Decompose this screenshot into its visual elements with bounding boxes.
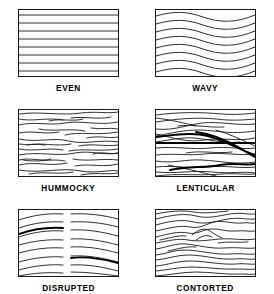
wavy-lamina bbox=[156, 36, 255, 45]
panel-label-contorted: CONTORTED bbox=[177, 283, 234, 293]
wavy-lamina bbox=[156, 68, 255, 76]
contorted-lamina bbox=[196, 236, 212, 240]
disrupted-lamina bbox=[19, 248, 63, 253]
hummocky-lamina bbox=[19, 139, 118, 142]
panel-cell-contorted: CONTORTED bbox=[137, 200, 274, 294]
panel-label-wavy: WAVY bbox=[193, 83, 219, 93]
lenticular-lamina bbox=[156, 153, 255, 155]
contorted-lamina bbox=[218, 242, 248, 243]
wavy-lamina bbox=[156, 28, 255, 37]
wavy-lamina bbox=[156, 44, 255, 53]
contorted-lamina bbox=[156, 267, 255, 271]
panel-hummocky-drawing bbox=[19, 110, 118, 176]
panel-disrupted bbox=[18, 209, 119, 277]
panel-contorted bbox=[155, 209, 256, 277]
contorted-lamina bbox=[156, 218, 255, 225]
hummocky-lamina bbox=[81, 173, 118, 175]
lenticular-lamina bbox=[156, 160, 255, 163]
contorted-lamina bbox=[156, 211, 228, 214]
lenticular-lamina bbox=[156, 174, 255, 176]
panel-wavy-drawing bbox=[156, 10, 255, 76]
lenticular-lamina bbox=[186, 152, 232, 153]
panel-cell-hummocky: HUMMOCKY bbox=[0, 100, 137, 200]
hummocky-lamina bbox=[69, 149, 118, 151]
contorted-lamina bbox=[192, 229, 222, 238]
disrupted-lamina bbox=[71, 247, 118, 253]
hummocky-lamina bbox=[19, 122, 118, 125]
panel-hummocky bbox=[18, 109, 119, 177]
disrupted-lamina bbox=[71, 214, 118, 219]
panel-label-disrupted: DISRUPTED bbox=[42, 283, 95, 293]
disrupted-lamina bbox=[19, 257, 63, 262]
wavy-lamina bbox=[156, 12, 255, 21]
panel-lenticular bbox=[155, 109, 256, 177]
hummocky-lamina bbox=[29, 172, 73, 174]
bedding-geometry-figure: EVEN WAVY HUMMOCKY bbox=[0, 0, 274, 294]
hummocky-lamina bbox=[87, 137, 118, 138]
hummocky-lamina bbox=[91, 128, 118, 129]
disrupted-lamina bbox=[71, 265, 118, 271]
wavy-lamina bbox=[156, 20, 255, 29]
lenticular-lamina bbox=[156, 123, 255, 130]
hummocky-lamina bbox=[71, 117, 111, 118]
contorted-lamina bbox=[156, 272, 255, 276]
hummocky-lamina bbox=[19, 149, 63, 150]
panel-label-lenticular: LENTICULAR bbox=[176, 183, 234, 193]
hummocky-lamina bbox=[19, 163, 67, 165]
disrupted-thin-lines bbox=[19, 214, 118, 276]
panel-cell-disrupted: DISRUPTED bbox=[0, 200, 137, 294]
panel-grid: EVEN WAVY HUMMOCKY bbox=[0, 0, 274, 294]
contorted-lamina bbox=[156, 244, 255, 249]
hummocky-lamina bbox=[75, 164, 118, 166]
wavy-lamina bbox=[156, 52, 255, 61]
hummocky-lamina bbox=[19, 132, 59, 133]
disrupted-lamina bbox=[19, 214, 63, 220]
disrupted-lamina bbox=[71, 222, 118, 227]
hummocky-thin-lines bbox=[19, 112, 118, 175]
lenticular-lamina bbox=[156, 171, 255, 173]
disrupted-lamina bbox=[71, 230, 118, 236]
lenticular-lamina bbox=[156, 113, 255, 115]
wavy-thin-lines bbox=[156, 12, 255, 76]
hummocky-lamina bbox=[65, 132, 118, 135]
wavy-lamina bbox=[156, 60, 255, 69]
panel-even-drawing bbox=[19, 10, 118, 76]
disrupted-lamina bbox=[71, 272, 118, 276]
hummocky-lamina bbox=[19, 112, 118, 114]
disrupted-lamina bbox=[19, 240, 63, 245]
contorted-lamina bbox=[156, 261, 255, 266]
panel-label-hummocky: HUMMOCKY bbox=[41, 183, 95, 193]
panel-wavy bbox=[155, 9, 256, 77]
disrupted-lamina bbox=[71, 239, 118, 245]
panel-disrupted-drawing bbox=[19, 210, 118, 276]
contorted-thin-lines bbox=[156, 211, 255, 276]
panel-label-even: EVEN bbox=[56, 83, 81, 93]
hummocky-lamina bbox=[39, 129, 85, 131]
panel-cell-even: EVEN bbox=[0, 0, 137, 100]
hummocky-lamina bbox=[19, 144, 45, 145]
hummocky-lamina bbox=[73, 159, 118, 160]
panel-cell-wavy: WAVY bbox=[137, 0, 274, 100]
panel-contorted-drawing bbox=[156, 210, 255, 276]
hummocky-lamina bbox=[79, 145, 118, 146]
contorted-lamina bbox=[156, 255, 255, 260]
disrupted-lamina bbox=[19, 273, 63, 276]
disrupted-lamina bbox=[19, 265, 63, 270]
panel-cell-lenticular: LENTICULAR bbox=[137, 100, 274, 200]
even-thin-lines bbox=[19, 15, 118, 71]
panel-even bbox=[18, 9, 119, 77]
panel-lenticular-drawing bbox=[156, 110, 255, 176]
hummocky-lamina bbox=[19, 170, 118, 172]
